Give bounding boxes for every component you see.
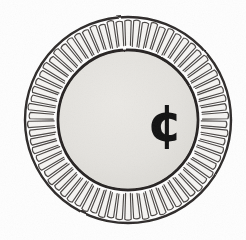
- circular-disc-diagram: ¢: [0, 0, 246, 240]
- paper-grain: [0, 0, 246, 240]
- figure-canvas: ¢: [0, 0, 246, 240]
